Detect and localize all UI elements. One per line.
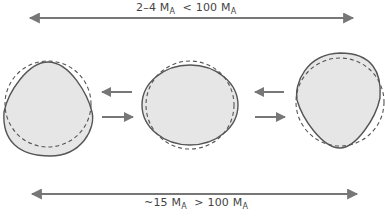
prolate-up-shape xyxy=(4,61,93,156)
bottom-unit-sub: A xyxy=(181,202,187,211)
arrow-pair-left xyxy=(102,92,133,117)
bottom-compare: > 100 xyxy=(194,196,229,209)
top-compare-unit: M xyxy=(221,1,231,14)
bottom-compare-unit-sub: A xyxy=(242,202,248,211)
oscillation-diagram xyxy=(0,0,385,217)
bottom-range: ~15 xyxy=(144,196,168,209)
top-compare-unit-sub: A xyxy=(231,7,237,16)
top-unit: M xyxy=(160,1,170,14)
arrow-pair-right xyxy=(255,92,285,117)
bottom-compare-unit: M xyxy=(233,196,243,209)
bottom-unit: M xyxy=(172,196,182,209)
top-range: 2–4 xyxy=(136,1,156,14)
top-axis-label: 2–4 MA < 100 MA xyxy=(136,1,236,16)
prolate-down-shape xyxy=(296,53,384,148)
top-unit-sub: A xyxy=(170,7,176,16)
bottom-axis-label: ~15 MA > 100 MA xyxy=(144,196,248,211)
top-compare: < 100 xyxy=(183,1,218,14)
oblate-shape xyxy=(142,61,238,149)
